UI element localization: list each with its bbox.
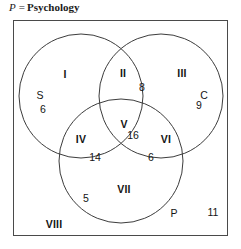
region-label-iii: III <box>177 68 186 79</box>
caption-symbol: P <box>9 1 16 13</box>
region-label-v: V <box>120 119 127 130</box>
venn-diagram-figure: P=Psychology S C P I II III IV V VI VII … <box>0 0 241 249</box>
diagram-frame: S C P I II III IV V VI VII VIII 6 8 9 14… <box>13 20 228 236</box>
region-count-v: 16 <box>127 130 139 141</box>
caption-equals: = <box>16 1 27 13</box>
region-count-vii: 5 <box>83 193 89 204</box>
region-count-iv: 14 <box>89 152 101 163</box>
region-label-ii: II <box>120 68 126 79</box>
set-label-p: P <box>170 208 177 219</box>
set-label-s: S <box>36 90 43 101</box>
region-label-iv: IV <box>76 134 86 145</box>
region-label-vi: VI <box>161 134 171 145</box>
figure-caption: P=Psychology <box>9 1 80 13</box>
region-count-ii: 8 <box>139 82 145 93</box>
region-label-viii: VIII <box>46 219 63 230</box>
caption-word: Psychology <box>27 1 80 13</box>
region-count-vi: 6 <box>148 152 154 163</box>
region-label-i: I <box>63 69 66 80</box>
region-count-iii: 9 <box>196 100 202 111</box>
region-count-viii: 11 <box>208 207 219 218</box>
region-label-vii: VII <box>117 184 130 195</box>
region-count-i: 6 <box>40 104 46 115</box>
